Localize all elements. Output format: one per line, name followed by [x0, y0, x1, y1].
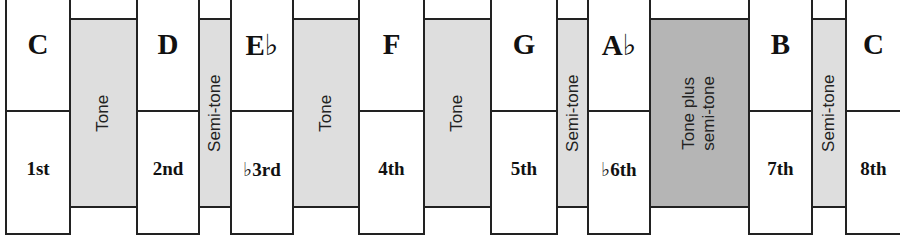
- divider-line: [138, 110, 198, 112]
- divider-line: [750, 110, 811, 112]
- note-column-c-octave: C 8th: [845, 0, 900, 235]
- divider-line: [7, 110, 69, 112]
- interval-label: Tone: [93, 95, 113, 132]
- interval-label-line2: semi-tone: [699, 76, 718, 151]
- note-name: A♭: [589, 28, 649, 62]
- interval-c-d: Tone: [70, 18, 137, 208]
- scale-degree: 5th: [492, 158, 556, 180]
- note-name: B: [750, 28, 811, 61]
- divider-line: [589, 110, 649, 112]
- note-name: E♭: [232, 28, 292, 62]
- divider-line: [360, 110, 423, 112]
- interval-label: Semi-tone: [819, 74, 839, 151]
- note-name: C: [847, 28, 900, 61]
- interval-g-aflat: Semi-tone: [557, 18, 588, 208]
- note-column-d: D 2nd: [136, 0, 200, 235]
- divider-line: [232, 110, 292, 112]
- divider-line: [847, 110, 900, 112]
- note-column-aflat: A♭ ♭6th: [587, 0, 651, 235]
- interval-label: Tone: [316, 95, 336, 132]
- interval-label: Semi-tone: [205, 74, 225, 151]
- note-column-f: F 4th: [358, 0, 425, 235]
- scale-degree: ♭6th: [589, 158, 649, 181]
- note-column-c: C 1st: [5, 0, 71, 235]
- scale-degree: ♭3rd: [232, 158, 292, 181]
- interval-eflat-f: Tone: [293, 18, 359, 208]
- scale-degree: 4th: [360, 158, 423, 180]
- scale-degree: 1st: [7, 158, 69, 180]
- interval-label: Semi-tone: [562, 74, 582, 151]
- note-name: D: [138, 28, 198, 61]
- note-name: G: [492, 28, 556, 61]
- note-column-eflat: E♭ ♭3rd: [230, 0, 294, 235]
- interval-f-g: Tone: [424, 18, 491, 208]
- note-column-g: G 5th: [490, 0, 558, 235]
- scale-degree: 2nd: [138, 158, 198, 180]
- interval-aflat-b: Tone plus semi-tone: [650, 18, 749, 208]
- interval-label-line1: Tone plus: [679, 77, 698, 150]
- interval-d-eflat: Semi-tone: [199, 18, 231, 208]
- interval-label: Tone: [447, 95, 467, 132]
- interval-b-c: Semi-tone: [812, 18, 846, 208]
- divider-line: [492, 110, 556, 112]
- note-name: F: [360, 28, 423, 61]
- note-column-b: B 7th: [748, 0, 813, 235]
- scale-degree: 8th: [847, 158, 900, 180]
- note-name: C: [7, 28, 69, 61]
- scale-degree: 7th: [750, 158, 811, 180]
- interval-label: Tone plus semi-tone: [679, 76, 720, 151]
- scale-interval-diagram: Tone Semi-tone Tone Tone Semi-tone Tone …: [0, 0, 900, 248]
